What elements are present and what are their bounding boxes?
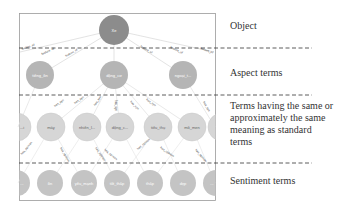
aspect-node-label: tiếng_ồn [32,73,47,78]
sentiment-node: tốt_thấp [104,170,130,196]
label-synonym-terms: Terms having the same or approximately t… [230,100,333,148]
sentiment-node: ... [4,170,30,196]
synonym-node-label: mô_men [184,125,200,130]
edge-labels: feature_of feature_of feature_of feature… [20,43,214,164]
label-synonym-line-1: Terms having the same or [230,100,333,112]
svg-text:has_opinion: has_opinion [136,137,151,151]
synonym-node: mô_men [178,113,206,141]
label-synonym-line-3: meaning as standard [230,124,333,136]
svg-text:has_opinion: has_opinion [20,140,34,155]
synonym-node-label: ...i [20,125,24,130]
synonym-node: động_c... [106,113,134,141]
svg-text:has_syn: has_syn [129,100,140,111]
sentiment-node-label: ồn [48,181,52,186]
svg-text:has_syn: has_syn [202,101,211,113]
synonym-node-label: máy [47,125,55,130]
aspect-node-label: động_cơ [106,73,122,78]
synonym-node: nhiên_l... [73,113,101,141]
sentiment-node: ... [203,170,229,196]
sentiment-node-label: tốt_thấp [110,181,125,186]
sentiment-node: yếu_mạnh [71,170,97,196]
sentiment-node-label: ... [210,181,213,186]
synonym-node: máy [37,113,65,141]
sentiment-node-label: ... [20,181,23,186]
synonym-node-label: động_c... [112,125,128,130]
svg-text:has_opinion: has_opinion [194,148,208,163]
synonym-node-label: nhiên_l... [79,125,95,130]
label-synonym-line-2: approximately the same [230,112,333,124]
svg-text:has_syn: has_syn [53,98,65,108]
aspect-nodes: tiếng_ồn động_cơ ngoại_t... [26,61,197,89]
svg-text:feature_of: feature_of [21,43,35,51]
sentiment-node: đẹp [170,170,196,196]
aspect-node: tiếng_ồn [26,61,54,89]
svg-text:has_syn: has_syn [145,98,157,108]
sentiment-node-label: đẹp [180,181,187,186]
object-node: Xe [99,15,129,45]
sentiment-node-label: yếu_mạnh [75,181,94,186]
sentiment-node-label: thấp [146,181,155,186]
synonym-nodes: ...i máy nhiên_l... động_c... tiêu_thụ m… [3,113,236,141]
object-node-label: Xe [112,28,118,33]
label-aspect-terms: Aspect terms [230,67,283,79]
label-sentiment-terms: Sentiment terms [230,175,295,187]
label-synonym-line-4: terms [230,136,333,148]
sentiment-nodes: ... ồn yếu_mạnh tốt_thấp thấp đẹp ... [4,170,229,196]
synonym-node-label: tiêu_thụ [151,125,165,130]
svg-text:feature_of: feature_of [140,44,154,54]
aspect-node: động_cơ [100,61,128,89]
synonym-node: tiêu_thụ [144,113,172,141]
aspect-node-label: ngoại_t... [175,73,191,78]
synonym-node: ...i [3,113,31,141]
svg-text:feature_of: feature_of [200,46,214,54]
aspect-node: ngoại_t... [169,61,197,89]
sentiment-node: thấp [137,170,163,196]
svg-text:has_syn: has_syn [114,100,118,112]
svg-text:feature_of: feature_of [170,45,184,54]
label-object: Object [230,20,257,32]
sentiment-node: ồn [37,170,63,196]
